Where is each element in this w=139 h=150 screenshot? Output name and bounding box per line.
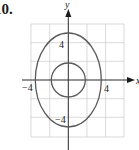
y-tick-neg4: −4	[55, 114, 66, 125]
x-tick-neg4: −4	[22, 82, 33, 93]
y-axis-label: y	[64, 0, 70, 10]
x-tick-4: 4	[104, 83, 109, 94]
graph: y x 4 −4 −4 4	[0, 0, 139, 150]
x-axis-label: x	[135, 75, 139, 86]
y-tick-4: 4	[59, 39, 64, 50]
x-axis-arrow-icon	[127, 77, 135, 83]
y-axis-arrow-icon	[65, 9, 71, 17]
